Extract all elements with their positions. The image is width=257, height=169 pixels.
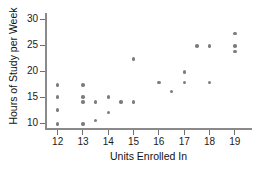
y-tick-mark <box>40 123 45 124</box>
data-point <box>56 83 59 86</box>
data-point <box>195 44 198 47</box>
data-point <box>81 100 84 103</box>
data-point <box>107 95 110 98</box>
x-axis-line <box>45 128 252 130</box>
data-point <box>81 122 84 125</box>
y-tick-mark <box>40 45 45 46</box>
y-tick-mark <box>40 97 45 98</box>
data-point <box>208 44 211 47</box>
data-point <box>208 81 211 84</box>
y-tick-label: 25 <box>27 39 38 50</box>
y-tick-label: 15 <box>27 91 38 102</box>
x-tick-mark <box>158 130 159 135</box>
data-point <box>170 90 173 93</box>
y-tick-mark <box>40 19 45 20</box>
x-axis-title: Units Enrolled In <box>45 150 252 162</box>
x-tick-mark <box>133 130 134 135</box>
data-point <box>94 119 97 122</box>
data-point <box>94 100 97 103</box>
data-point <box>233 50 236 53</box>
data-point <box>107 111 110 114</box>
data-point <box>81 95 84 98</box>
data-point <box>56 122 59 125</box>
y-tick-mark <box>40 71 45 72</box>
data-point <box>132 57 135 60</box>
data-point <box>132 100 135 103</box>
x-tick-label: 15 <box>128 136 139 147</box>
x-tick-label: 12 <box>52 136 63 147</box>
x-tick-mark <box>57 130 58 135</box>
x-tick-label: 17 <box>179 136 190 147</box>
scatter-plot-figure: 1015202530 1213141516171819 Units Enroll… <box>0 0 257 169</box>
data-point <box>157 81 160 84</box>
x-tick-label: 16 <box>153 136 164 147</box>
x-tick-mark <box>82 130 83 135</box>
x-tick-mark <box>184 130 185 135</box>
data-point <box>183 81 186 84</box>
x-tick-mark <box>209 130 210 135</box>
y-tick-label: 20 <box>27 65 38 76</box>
data-point <box>233 32 236 35</box>
x-tick-label: 14 <box>103 136 114 147</box>
y-tick-label: 10 <box>27 117 38 128</box>
data-point <box>233 44 236 47</box>
x-tick-mark <box>234 130 235 135</box>
x-tick-mark <box>108 130 109 135</box>
x-tick-label: 19 <box>229 136 240 147</box>
data-point <box>56 108 59 111</box>
y-axis-title: Hours of Study per Week <box>7 1 19 131</box>
data-point <box>183 70 186 73</box>
y-tick-label: 30 <box>27 13 38 24</box>
x-tick-label: 13 <box>77 136 88 147</box>
data-point <box>56 95 59 98</box>
data-point <box>119 100 122 103</box>
data-point <box>81 83 84 86</box>
plot-area: 1015202530 1213141516171819 <box>45 15 250 128</box>
x-tick-label: 18 <box>204 136 215 147</box>
